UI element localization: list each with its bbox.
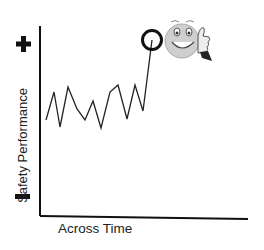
diagram-canvas — [0, 0, 264, 250]
performance-line — [46, 40, 152, 128]
x-axis — [40, 216, 248, 219]
plus-icon — [16, 36, 31, 52]
x-axis-label: Across Time — [58, 221, 132, 236]
y-axis-label: Safety Performance — [15, 86, 30, 206]
smiley-thumbs-up-icon — [165, 21, 212, 62]
